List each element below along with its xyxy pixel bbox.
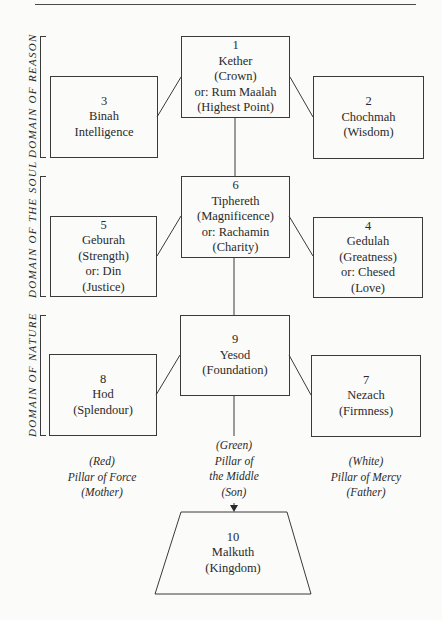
sephirah-meaning: (Strength) bbox=[78, 249, 129, 265]
sephirah-number: 1 bbox=[232, 38, 238, 54]
sephirah-geburah: 5 Geburah (Strength) or: Din (Justice) bbox=[50, 216, 157, 297]
sephirah-meaning: (Crown) bbox=[214, 69, 256, 85]
sephirah-number: 9 bbox=[232, 332, 238, 348]
sephirah-hod: 8 Hod (Splendour) bbox=[49, 354, 157, 436]
sephirah-malkuth: 10 Malkuth (Kingdom) bbox=[155, 512, 311, 594]
sephirah-alt-meaning: (Charity) bbox=[213, 240, 259, 256]
pillar-name-line2: the Middle bbox=[184, 469, 284, 485]
sephirah-meaning: (Foundation) bbox=[202, 363, 267, 379]
domain-label-soul: DOMAIN OF THE SOUL bbox=[26, 176, 42, 298]
sephirah-alt-name: or: Rachamin bbox=[202, 225, 270, 241]
sephirah-number: 6 bbox=[232, 178, 238, 194]
sephirah-number: 7 bbox=[363, 373, 369, 389]
sephirah-name: Geburah bbox=[82, 233, 125, 249]
sephirah-alt-name: or: Rum Maalah bbox=[195, 85, 277, 101]
sephirah-binah: 3 Binah Intelligence bbox=[50, 76, 158, 158]
sephirah-meaning: (Firmness) bbox=[339, 404, 393, 420]
pillar-name: Pillar of Force bbox=[52, 470, 152, 486]
sephirah-name: Binah bbox=[89, 109, 119, 125]
sephirah-name: Nezach bbox=[347, 388, 384, 404]
sephirah-chochmah: 2 Chochmah (Wisdom) bbox=[313, 76, 424, 159]
sephirah-name: Gedulah bbox=[347, 234, 389, 250]
pillar-color: (Red) bbox=[52, 454, 152, 470]
domain-label-nature: DOMAIN OF NATURE bbox=[26, 315, 42, 437]
arrow-head-icon bbox=[230, 505, 238, 512]
sephirah-name: Tiphereth bbox=[211, 194, 259, 210]
sephirah-name: Chochmah bbox=[341, 110, 395, 126]
pillar-middle-label: (Green) Pillar of the Middle (Son) bbox=[184, 438, 284, 500]
sephirah-gedulah: 4 Gedulah (Greatness) or: Chesed (Love) bbox=[313, 217, 423, 298]
pillar-figure: (Mother) bbox=[52, 485, 152, 501]
sephirah-meaning: Intelligence bbox=[75, 125, 134, 141]
sephirah-number: 5 bbox=[100, 218, 106, 234]
sephirah-name: Malkuth bbox=[212, 545, 254, 561]
sephirah-number: 4 bbox=[365, 219, 371, 235]
sephirah-number: 3 bbox=[101, 94, 107, 110]
sephirah-yesod: 9 Yesod (Foundation) bbox=[180, 315, 290, 396]
pillar-force-label: (Red) Pillar of Force (Mother) bbox=[52, 454, 152, 501]
sephirah-meaning: (Wisdom) bbox=[343, 125, 393, 141]
sephirah-number: 10 bbox=[227, 530, 240, 546]
sephirah-meaning: (Splendour) bbox=[73, 403, 133, 419]
sephirah-alt-meaning: (Highest Point) bbox=[197, 100, 274, 116]
sephirah-number: 2 bbox=[365, 94, 371, 110]
pillar-figure: (Father) bbox=[316, 485, 416, 501]
sephirah-tiphereth: 6 Tiphereth (Magnificence) or: Rachamin … bbox=[181, 176, 290, 258]
pillar-name-line1: Pillar of bbox=[184, 454, 284, 470]
pillar-color: (Green) bbox=[184, 438, 284, 454]
pillar-color: (White) bbox=[316, 454, 416, 470]
sephirah-alt-meaning: (Justice) bbox=[82, 280, 124, 296]
sephirah-number: 8 bbox=[100, 372, 106, 388]
sephirah-kether: 1 Kether (Crown) or: Rum Maalah (Highest… bbox=[181, 36, 290, 118]
sephirah-meaning: (Greatness) bbox=[339, 250, 397, 266]
pillar-figure: (Son) bbox=[184, 485, 284, 501]
sephirah-name: Hod bbox=[92, 387, 114, 403]
domain-label-reason: DOMAIN OF REASON bbox=[26, 36, 42, 158]
pillar-mercy-label: (White) Pillar of Mercy (Father) bbox=[316, 454, 416, 501]
sephirah-meaning: (Kingdom) bbox=[205, 561, 261, 577]
sephirah-name: Yesod bbox=[220, 348, 251, 364]
pillar-name: Pillar of Mercy bbox=[316, 470, 416, 486]
sephirah-alt-name: or: Din bbox=[86, 264, 122, 280]
sephirah-nezach: 7 Nezach (Firmness) bbox=[311, 355, 421, 437]
sephirah-alt-meaning: (Love) bbox=[351, 281, 385, 297]
sephirah-name: Kether bbox=[218, 54, 252, 70]
sephirah-meaning: (Magnificence) bbox=[197, 209, 274, 225]
sephirah-alt-name: or: Chesed bbox=[341, 265, 395, 281]
